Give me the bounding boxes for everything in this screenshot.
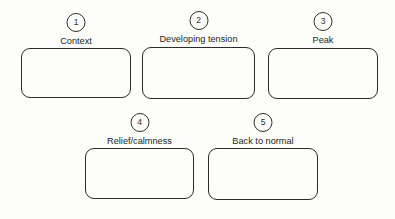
diagram-canvas: 1 Context 2 Developing tension 3 Peak 4 … <box>0 0 395 219</box>
step-label-5: Back to normal <box>232 135 293 147</box>
step-number-badge-3: 3 <box>314 12 333 31</box>
step-answer-box-3[interactable] <box>268 48 378 99</box>
step-number-text-5: 5 <box>261 118 266 127</box>
step-label-1: Context <box>60 35 92 47</box>
step-number-text-2: 2 <box>196 16 201 25</box>
step-answer-box-2[interactable] <box>142 47 255 99</box>
step-number-badge-2: 2 <box>189 11 208 30</box>
step-number-text-1: 1 <box>74 18 79 27</box>
step-number-text-4: 4 <box>137 118 142 127</box>
step-label-2: Developing tension <box>159 33 237 45</box>
step-label-3: Peak <box>313 34 334 46</box>
step-label-4: Relief/calmness <box>107 135 172 147</box>
step-answer-box-4[interactable] <box>85 148 194 199</box>
step-answer-box-1[interactable] <box>21 48 131 98</box>
step-answer-box-5[interactable] <box>208 148 318 200</box>
step-number-badge-4: 4 <box>130 113 149 132</box>
step-number-text-3: 3 <box>321 17 326 26</box>
step-number-badge-5: 5 <box>254 113 273 132</box>
step-number-badge-1: 1 <box>67 13 86 32</box>
